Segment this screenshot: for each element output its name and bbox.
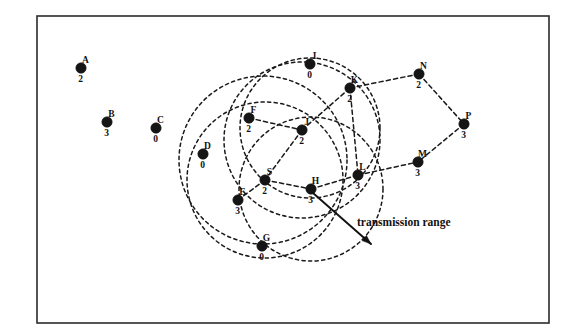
node-M[interactable]: M3: [413, 149, 427, 178]
node-S[interactable]: S2: [260, 167, 272, 196]
node-C[interactable]: C0: [151, 115, 164, 144]
node-value-C: 0: [153, 134, 158, 144]
link-S-H: [265, 180, 311, 189]
node-F[interactable]: F2: [244, 105, 257, 134]
node-value-M: 3: [415, 168, 420, 178]
node-value-E: 3: [235, 206, 240, 216]
link-F-J: [249, 118, 302, 130]
link-K-N: [350, 74, 419, 88]
node-value-S: 2: [262, 186, 267, 196]
node-value-K: 2: [347, 94, 352, 104]
node-label-C: C: [157, 115, 164, 125]
node-label-G: G: [263, 233, 271, 243]
node-label-E: E: [239, 187, 245, 197]
node-label-P: P: [466, 111, 472, 121]
network-nodes: A2B3C0D0F2I0K2N2P3J2M3S2H3L3E3G0: [76, 51, 472, 262]
node-P[interactable]: P3: [459, 111, 472, 140]
network-topology-figure: A2B3C0D0F2I0K2N2P3J2M3S2H3L3E3G0 transmi…: [0, 0, 585, 336]
node-value-H: 3: [308, 195, 313, 205]
node-I[interactable]: I0: [305, 51, 317, 80]
node-value-N: 2: [416, 80, 421, 90]
node-label-I: I: [313, 51, 317, 61]
node-B[interactable]: B3: [102, 109, 116, 138]
node-label-S: S: [267, 167, 272, 177]
node-E[interactable]: E3: [233, 187, 246, 216]
node-label-N: N: [420, 61, 427, 71]
node-value-P: 3: [461, 130, 466, 140]
node-H[interactable]: H3: [306, 176, 320, 205]
node-label-M: M: [418, 149, 427, 159]
node-N[interactable]: N2: [414, 61, 427, 90]
node-K[interactable]: K2: [345, 75, 359, 104]
node-value-A: 2: [78, 74, 83, 84]
node-value-G: 0: [259, 252, 264, 262]
node-label-K: K: [351, 75, 359, 85]
node-value-D: 0: [200, 160, 205, 170]
node-label-J: J: [304, 117, 309, 127]
link-N-P: [419, 74, 464, 124]
node-label-L: L: [359, 162, 365, 172]
node-label-B: B: [108, 109, 115, 119]
figure-canvas: A2B3C0D0F2I0K2N2P3J2M3S2H3L3E3G0 transmi…: [0, 0, 585, 336]
node-value-I: 0: [307, 70, 312, 80]
node-label-D: D: [204, 141, 211, 151]
node-L[interactable]: L3: [353, 162, 366, 191]
node-value-L: 3: [355, 181, 360, 191]
node-value-B: 3: [104, 128, 109, 138]
node-value-F: 2: [246, 124, 251, 134]
node-label-A: A: [82, 55, 89, 65]
node-D[interactable]: D0: [198, 141, 211, 170]
node-label-F: F: [251, 105, 257, 115]
node-J[interactable]: J2: [297, 117, 309, 146]
node-value-J: 2: [299, 136, 304, 146]
node-A[interactable]: A2: [76, 55, 89, 84]
transmission-range-label: transmission range: [357, 216, 451, 229]
node-label-H: H: [312, 176, 320, 186]
